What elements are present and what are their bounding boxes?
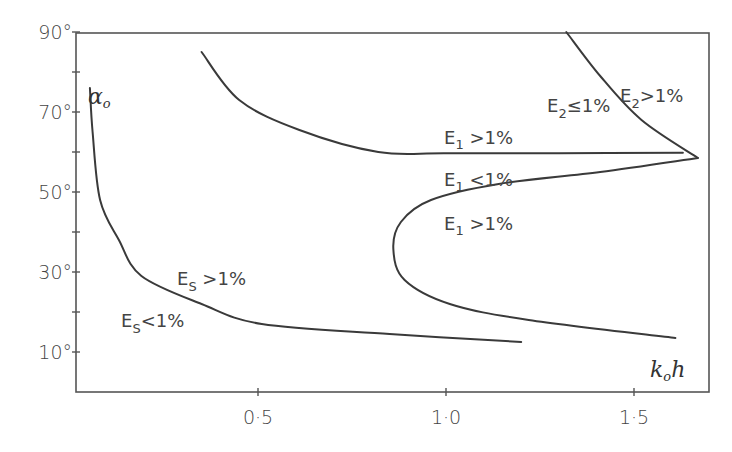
y-tick-label: 10° bbox=[38, 341, 72, 363]
y-axis-ticks: 10°30°50°70°90° bbox=[38, 21, 80, 363]
label-es-greater: ES >1% bbox=[177, 268, 246, 294]
label-es-less: ES<1% bbox=[121, 310, 184, 336]
plot-border bbox=[76, 33, 709, 392]
label-e2-less-equal: E2≤1% bbox=[547, 95, 610, 121]
label-e2-greater: E2>1% bbox=[620, 85, 683, 111]
curve-e1-c-shape bbox=[393, 158, 698, 338]
x-tick-label: 1·0 bbox=[431, 406, 461, 428]
curve-es bbox=[90, 88, 521, 342]
y-axis-title: αo bbox=[88, 84, 111, 111]
y-tick-label: 30° bbox=[38, 261, 72, 283]
x-tick-label: 0·5 bbox=[243, 406, 273, 428]
label-e1-less: E1 <1% bbox=[444, 169, 513, 194]
label-e1-greater-top: E1 >1% bbox=[444, 127, 513, 152]
y-tick-label: 90° bbox=[38, 21, 72, 43]
label-e1-greater-bottom: E1 >1% bbox=[444, 213, 513, 238]
y-tick-label: 70° bbox=[38, 101, 72, 123]
curve-e1-upper bbox=[202, 52, 683, 154]
x-axis-ticks: 0·51·01·5 bbox=[243, 388, 649, 428]
plot-frame bbox=[76, 33, 709, 392]
chart-canvas: 10°30°50°70°90° 0·51·01·5 αo koh E1 >1% … bbox=[0, 0, 732, 452]
x-axis-title: koh bbox=[650, 357, 685, 384]
y-tick-label: 50° bbox=[38, 181, 72, 203]
x-tick-label: 1·5 bbox=[619, 406, 649, 428]
curves bbox=[90, 32, 698, 342]
